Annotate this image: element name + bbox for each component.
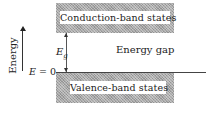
energy-axis-label: Energy [7,36,18,76]
zero-energy-var: E [29,66,36,77]
valence-band: Valence-band states [56,73,174,103]
zero-energy-label: E = 0 [29,66,56,77]
zero-energy-line [56,72,206,73]
gap-symbol-subscript: g [63,52,67,60]
gap-symbol: Eg [56,46,68,60]
energy-axis-arrow-icon [22,29,23,71]
conduction-band-label: Conduction-band states [60,11,170,24]
conduction-band: Conduction-band states [56,3,174,33]
valence-band-label: Valence-band states [70,81,166,94]
zero-energy-eq: = 0 [36,66,56,77]
energy-gap-label: Energy gap [116,44,174,55]
